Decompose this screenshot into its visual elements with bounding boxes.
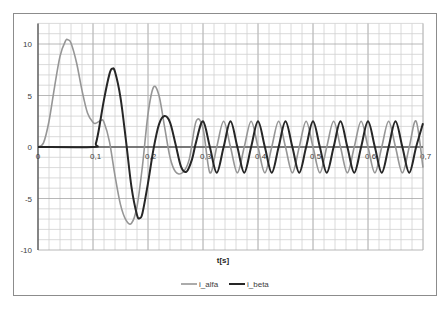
series-lines	[38, 39, 423, 224]
y-tick-label: 10	[23, 40, 32, 49]
y-tick-label: 5	[28, 92, 33, 101]
y-tick-label: -10	[20, 246, 32, 255]
series-line-i-beta	[38, 68, 423, 218]
legend: i_alfa i_beta	[181, 280, 269, 289]
x-axis-title: t[s]	[217, 256, 230, 265]
legend-label-i-beta: i_beta	[247, 280, 269, 289]
legend-label-i-alfa: i_alfa	[199, 280, 219, 289]
y-tick-label: 0	[28, 143, 33, 152]
x-tick-label: 0,1	[90, 152, 102, 161]
legend-item-i-beta[interactable]: i_beta	[229, 280, 269, 289]
legend-item-i-alfa[interactable]: i_alfa	[181, 280, 219, 289]
x-tick-label: 0	[36, 152, 41, 161]
y-tick-label: -5	[25, 195, 33, 204]
y-tick-labels: 1050-5-10	[20, 40, 32, 255]
line-chart: 1050-5-10 00,10,20,30,40,50,60,7 t[s] i_…	[0, 0, 448, 311]
